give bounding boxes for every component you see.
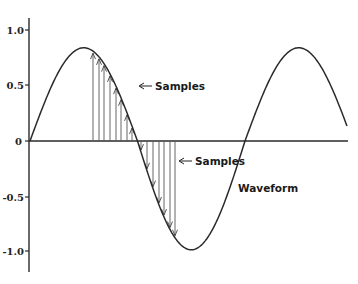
tick-label-neg-1: -1.0 — [2, 246, 24, 257]
samples-label-lower: Samples — [195, 155, 245, 167]
samples-label-upper: Samples — [155, 80, 205, 92]
tick-label-1: 1.0 — [7, 25, 24, 36]
samples-annotation-upper: Samples — [139, 80, 205, 92]
waveform-sampling-diagram: 1.0 0.5 0 -0.5 -1.0 Samples Samples Wave… — [0, 0, 358, 284]
tick-label-neg-0-5: -0.5 — [2, 192, 24, 203]
y-axis-tick-labels: 1.0 0.5 0 -0.5 -1.0 — [2, 25, 24, 257]
waveform-curve — [30, 48, 347, 250]
samples-annotation-lower: Samples — [179, 155, 245, 167]
tick-label-0: 0 — [15, 136, 22, 147]
waveform-label: Waveform — [238, 182, 298, 194]
tick-label-0-5: 0.5 — [7, 80, 24, 91]
